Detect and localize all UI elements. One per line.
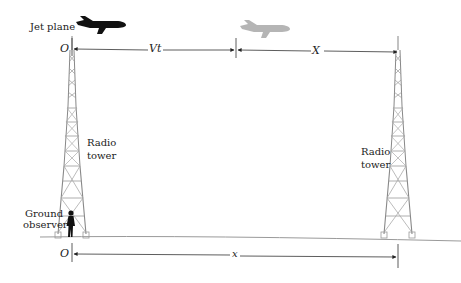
ground-observer-label-line1: Ground (25, 209, 63, 219)
x-label: x (232, 249, 238, 259)
X-dimension-left (238, 50, 311, 51)
jet-plane-ghost-icon (240, 20, 290, 38)
vt-label: Vt (149, 43, 161, 54)
ground-observer-label-line2: observer (23, 220, 68, 230)
diagram-canvas (0, 0, 461, 283)
jet-plane-solid-icon (76, 16, 126, 34)
tower-right-label-line2: tower (361, 160, 390, 170)
origin-top-label: O (60, 43, 69, 54)
ground-line (40, 237, 461, 242)
X-label: X (312, 45, 320, 56)
jet-plane-label: Jet plane (30, 22, 75, 32)
vt-dimension-left (74, 49, 148, 50)
X-dimension-right (324, 51, 397, 52)
tower-right-label-line1: Radio (361, 147, 390, 157)
tower-left-label-line2: tower (87, 151, 116, 161)
tower-left-label-line1: Radio (87, 138, 116, 148)
origin-bottom-label: O (60, 248, 69, 259)
x-dimension-right (240, 256, 396, 257)
radio-tower-right-icon (381, 36, 415, 238)
x-dimension-left (74, 254, 230, 255)
